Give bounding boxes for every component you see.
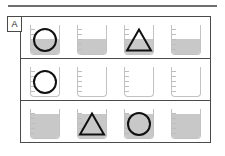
graduation-tick: [125, 29, 129, 30]
graduation-tick: [172, 91, 176, 92]
graduation-tick: [125, 133, 129, 134]
beaker-cell-2-3[interactable]: [119, 63, 159, 97]
beaker-r3c4[interactable]: [171, 109, 201, 139]
graduation-tick: [31, 128, 35, 129]
graduation-tick: [31, 39, 35, 40]
graduation-tick: [31, 123, 35, 124]
graduation-tick: [78, 123, 82, 124]
graduation-tick: [125, 118, 129, 119]
graduation-tick: [31, 44, 35, 45]
beaker-graduation-marks: [78, 71, 84, 93]
beaker-graduation-marks: [31, 29, 37, 51]
graduation-tick: [78, 133, 82, 134]
figure-root: A: [0, 0, 225, 156]
beaker-cell-1-4[interactable]: [166, 21, 206, 55]
graduation-tick: [31, 113, 35, 114]
graduation-tick: [31, 71, 35, 72]
beaker-graduation-marks: [125, 71, 131, 93]
beaker-cell-3-3[interactable]: [119, 105, 159, 139]
graduation-tick: [31, 133, 35, 134]
beaker-graduation-marks: [125, 29, 131, 51]
beaker-r3c2[interactable]: [77, 109, 107, 139]
graduation-tick: [125, 128, 129, 129]
graduation-tick: [172, 29, 176, 30]
beaker-graduation-marks: [172, 71, 178, 93]
top-divider-rule: [8, 5, 217, 7]
beaker-cell-2-4[interactable]: [166, 63, 206, 97]
graduation-tick: [31, 49, 35, 50]
beaker-r1c3[interactable]: [124, 25, 154, 55]
beaker-cell-3-1[interactable]: [25, 105, 65, 139]
beaker-graduation-marks: [78, 29, 84, 51]
beaker-cell-2-1[interactable]: [25, 63, 65, 97]
graduation-tick: [31, 86, 35, 87]
graduation-tick: [172, 133, 176, 134]
beaker-cell-1-3[interactable]: [119, 21, 159, 55]
graduation-tick: [125, 49, 129, 50]
graduation-tick: [78, 81, 82, 82]
beaker-r2c1[interactable]: [30, 67, 60, 97]
graduation-tick: [78, 29, 82, 30]
beaker-r1c1[interactable]: [30, 25, 60, 55]
beaker-graduation-marks: [172, 113, 178, 135]
panel-label-a: A: [7, 16, 22, 32]
graduation-tick: [31, 34, 35, 35]
graduation-tick: [31, 118, 35, 119]
graduation-tick: [125, 113, 129, 114]
graduation-tick: [172, 86, 176, 87]
beaker-r1c2[interactable]: [77, 25, 107, 55]
graduation-tick: [78, 49, 82, 50]
beaker-graduation-marks: [78, 113, 84, 135]
beaker-graduation-marks: [31, 71, 37, 93]
beaker-r1c4[interactable]: [171, 25, 201, 55]
graduation-tick: [125, 86, 129, 87]
graduation-tick: [172, 113, 176, 114]
graduation-tick: [78, 76, 82, 77]
graduation-tick: [78, 39, 82, 40]
beaker-r2c4[interactable]: [171, 67, 201, 97]
graduation-tick: [172, 39, 176, 40]
beaker-grid-panel: [20, 16, 211, 143]
beaker-r3c3[interactable]: [124, 109, 154, 139]
graduation-tick: [172, 123, 176, 124]
graduation-tick: [78, 113, 82, 114]
beaker-r2c2[interactable]: [77, 67, 107, 97]
graduation-tick: [172, 81, 176, 82]
beaker-graduation-marks: [31, 113, 37, 135]
graduation-tick: [78, 91, 82, 92]
graduation-tick: [125, 44, 129, 45]
graduation-tick: [125, 81, 129, 82]
graduation-tick: [31, 29, 35, 30]
beaker-r2c3[interactable]: [124, 67, 154, 97]
graduation-tick: [78, 118, 82, 119]
graduation-tick: [31, 81, 35, 82]
beaker-cell-3-2[interactable]: [72, 105, 112, 139]
graduation-tick: [125, 39, 129, 40]
graduation-tick: [125, 123, 129, 124]
graduation-tick: [172, 34, 176, 35]
graduation-tick: [125, 34, 129, 35]
graduation-tick: [172, 71, 176, 72]
graduation-tick: [78, 34, 82, 35]
beaker-cell-1-1[interactable]: [25, 21, 65, 55]
row-2: [21, 59, 210, 101]
row-3: [21, 101, 210, 142]
beaker-cell-2-2[interactable]: [72, 63, 112, 97]
graduation-tick: [78, 71, 82, 72]
graduation-tick: [172, 128, 176, 129]
graduation-tick: [172, 76, 176, 77]
beaker-r3c1[interactable]: [30, 109, 60, 139]
beaker-cell-3-4[interactable]: [166, 105, 206, 139]
beaker-cell-1-2[interactable]: [72, 21, 112, 55]
graduation-tick: [78, 44, 82, 45]
graduation-tick: [78, 128, 82, 129]
graduation-tick: [125, 91, 129, 92]
graduation-tick: [31, 76, 35, 77]
graduation-tick: [172, 49, 176, 50]
graduation-tick: [172, 44, 176, 45]
graduation-tick: [78, 86, 82, 87]
row-1: [21, 17, 210, 59]
beaker-graduation-marks: [172, 29, 178, 51]
graduation-tick: [125, 71, 129, 72]
graduation-tick: [31, 91, 35, 92]
